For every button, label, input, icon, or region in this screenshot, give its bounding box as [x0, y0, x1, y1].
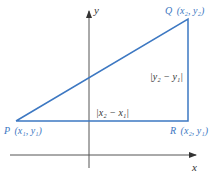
point-p-name: P: [3, 125, 10, 136]
x-axis-label: x: [191, 161, 197, 173]
point-p-label: P (x₁, y₁): [3, 125, 43, 137]
point-r-coords: (x₂, y₁): [181, 125, 209, 137]
point-q-coords: (x₂, y₂): [177, 5, 205, 17]
vertical-distance-label: |y₂ − y₁|: [150, 71, 183, 82]
point-r-name: R: [169, 125, 176, 136]
horizontal-distance-label: |x₂ − x₁|: [96, 107, 129, 118]
y-axis-label: y: [93, 4, 99, 16]
point-q-name: Q: [165, 5, 173, 16]
right-triangle: [16, 19, 188, 121]
distance-formula-diagram: x y Q (x₂, y₂) P (x₁, y₁) R (x₂, y₁) |x₂…: [0, 0, 212, 176]
point-r-label: R (x₂, y₁): [169, 125, 209, 137]
point-p-coords: (x₁, y₁): [14, 125, 42, 137]
point-q-label: Q (x₂, y₂): [165, 5, 205, 17]
